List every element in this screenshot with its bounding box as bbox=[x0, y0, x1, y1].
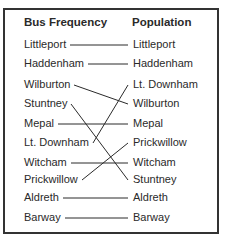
connector-lines bbox=[0, 0, 226, 242]
connector-line bbox=[74, 85, 128, 104]
connector-line bbox=[71, 104, 128, 180]
